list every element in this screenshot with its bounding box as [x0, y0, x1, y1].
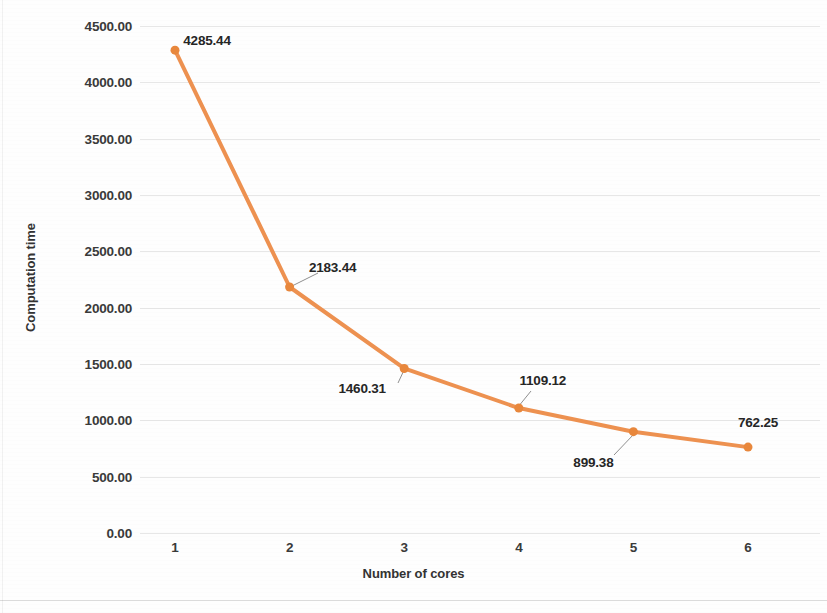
data-point-marker[interactable] [285, 282, 294, 291]
data-point-label: 1460.31 [338, 381, 385, 396]
y-axis-title: Computation time [23, 178, 38, 378]
data-point-marker[interactable] [400, 364, 409, 373]
data-label-leader-line [290, 273, 318, 287]
data-point-marker[interactable] [171, 46, 180, 55]
data-point-label: 2183.44 [309, 259, 356, 274]
data-point-label: 762.25 [738, 415, 778, 430]
data-point-label: 4285.44 [183, 33, 230, 48]
series-line [175, 50, 748, 447]
data-point-label: 1109.12 [519, 373, 566, 388]
data-point-marker[interactable] [744, 443, 753, 452]
plot-area [0, 0, 827, 600]
x-axis-title: Number of cores [0, 566, 827, 581]
data-label-leader-line [614, 434, 634, 455]
page-bottom-edge [0, 600, 827, 601]
line-chart: 4500.004000.003500.003000.002500.002000.… [0, 0, 827, 600]
data-point-label: 899.38 [573, 454, 613, 469]
data-point-marker[interactable] [629, 427, 638, 436]
data-point-marker[interactable] [514, 404, 523, 413]
